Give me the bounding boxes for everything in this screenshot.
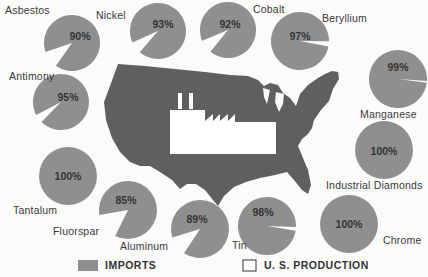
pie-label-manganese: Manganese [360,108,417,120]
pie-percent-manganese: 99% [387,61,408,73]
pie-label-nickel: Nickel [96,9,126,21]
pie-label-cobalt: Cobalt [253,3,285,15]
pie-percent-aluminum: 89% [186,213,207,225]
pie-label-industrial-diamonds: Industrial Diamonds [326,179,423,191]
legend-production-label: U. S. PRODUCTION [264,259,369,271]
pie-percent-fluorspar: 85% [115,194,136,206]
pie-label-tin: Tin [232,239,247,251]
pie-percent-asbestos: 90% [69,30,90,42]
pie-fluorspar [99,181,157,239]
legend-swatch-imports [78,260,98,271]
pie-percent-beryllium: 97% [289,30,310,42]
pie-percent-cobalt: 92% [219,18,240,30]
pie-label-tantalum: Tantalum [13,204,57,216]
pie-manganese [369,50,427,108]
legend-imports: IMPORTS [105,259,156,271]
pie-percent-industrial-diamonds: 100% [371,145,398,157]
pie-percent-antimony: 95% [57,91,78,103]
legend-imports-label: IMPORTS [105,259,156,271]
pie-nickel [130,3,186,59]
legend-swatch-production [243,260,256,271]
pie-cobalt [200,2,256,58]
pie-percent-tin: 98% [252,206,273,218]
pie-label-beryllium: Beryllium [322,12,367,24]
pie-percent-chrome: 100% [336,218,363,230]
pie-label-asbestos: Asbestos [5,4,50,16]
pie-asbestos [44,15,100,71]
pie-percent-nickel: 93% [152,18,173,30]
pie-percent-tantalum: 100% [55,170,82,182]
legend-production: U. S. PRODUCTION [264,259,369,271]
pie-label-fluorspar: Fluorspar [53,225,99,237]
pie-label-aluminum: Aluminum [120,240,168,252]
pie-label-antimony: Antimony [9,70,54,82]
mineral-imports-chart: Asbestos90%Nickel93%Cobalt92%Beryllium97… [0,0,428,277]
pie-label-chrome: Chrome [383,234,422,246]
pie-aluminum [171,200,229,258]
